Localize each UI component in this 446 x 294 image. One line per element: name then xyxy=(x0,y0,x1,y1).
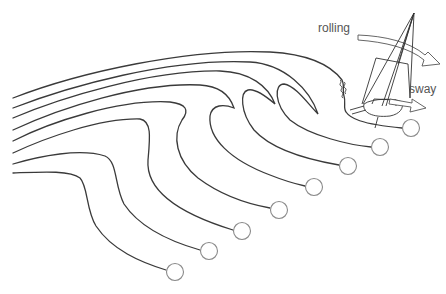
wave-diagram: rolling sway xyxy=(0,0,446,294)
particle-1 xyxy=(167,264,184,281)
sway-arrow-icon xyxy=(389,99,426,112)
particle-4 xyxy=(271,202,288,219)
streamline-7 xyxy=(13,62,371,147)
streamline-1 xyxy=(13,172,166,270)
ship-icon xyxy=(350,13,414,128)
particle-8 xyxy=(403,120,420,137)
particle-7 xyxy=(372,139,389,156)
water-particles xyxy=(167,120,420,281)
streamline-3 xyxy=(13,119,233,230)
particle-3 xyxy=(234,223,251,240)
rolling-label: rolling xyxy=(318,21,350,35)
particle-6 xyxy=(340,158,357,175)
streamline-2 xyxy=(13,153,200,250)
sway-label: sway xyxy=(409,82,436,96)
particle-2 xyxy=(201,243,218,260)
particle-5 xyxy=(306,179,323,196)
